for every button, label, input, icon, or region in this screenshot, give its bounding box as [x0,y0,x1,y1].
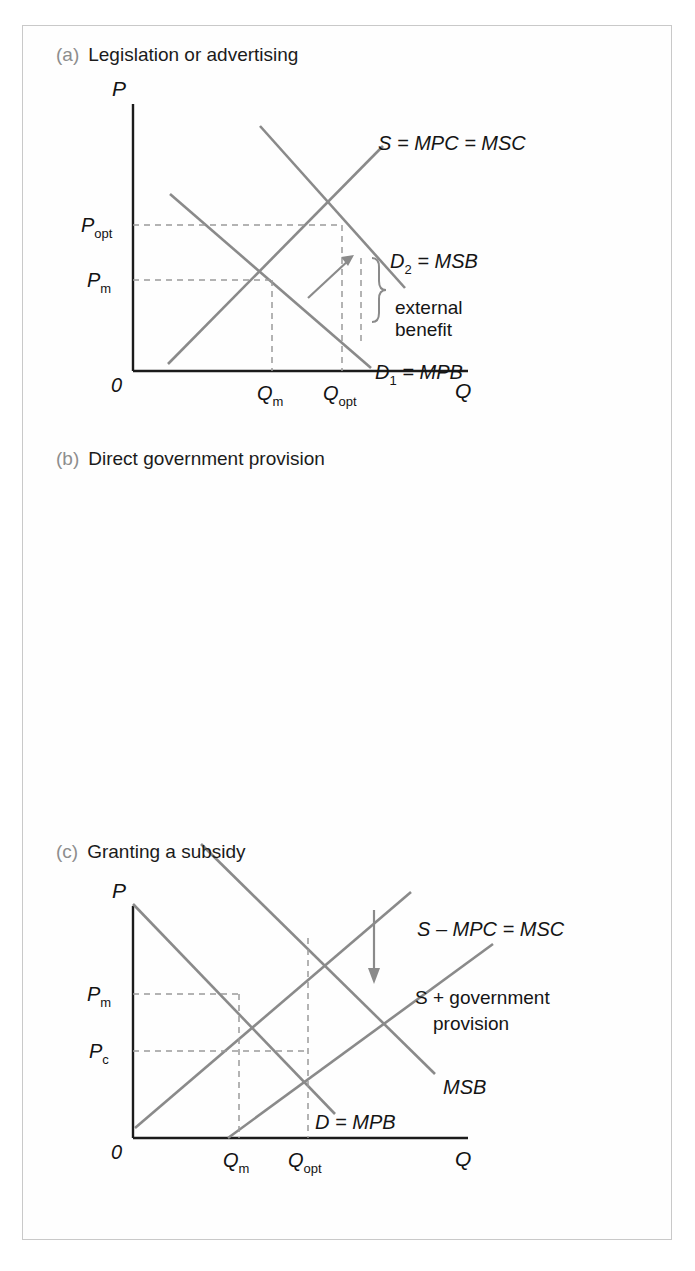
demand-social-label: D2 = MSB [390,250,478,277]
panel-c: (c)Granting a subsidy [23,821,673,1241]
x-tick-qopt: Qopt [323,382,357,409]
supply-curve-label: S = MPC = MSC [378,132,526,154]
panel-b-title-text: Direct government provision [88,448,325,469]
demand-private-curve [170,194,371,368]
panel-b-title: (b)Direct government provision [56,448,325,470]
y-tick-popt: Popt [81,214,113,241]
supply-curve [168,146,383,364]
external-benefit-line1: external [395,297,463,318]
panel-c-title-text: Granting a subsidy [87,841,245,862]
figure-frame: (a)Legislation or advertising [22,25,672,1240]
panel-a: (a)Legislation or advertising [23,26,673,426]
shift-arrow [308,255,354,298]
origin-label: 0 [111,374,122,396]
external-benefit-line2: benefit [395,319,453,340]
y-axis-label: P [112,77,126,100]
panel-c-title: (c)Granting a subsidy [56,841,246,863]
y-tick-pm: Pm [87,269,111,296]
panel-b: (b)Direct government provision [23,426,673,821]
panel-c-tag: (c) [56,841,78,862]
x-tick-qm: Qm [257,382,283,409]
demand-private-label: D1 = MPB [375,361,463,388]
panel-a-chart: P Q 0 Popt Pm Qm Qopt S = MPC = MSC D2 =… [23,26,673,426]
external-benefit-brace [372,258,386,322]
panel-b-tag: (b) [56,448,79,469]
